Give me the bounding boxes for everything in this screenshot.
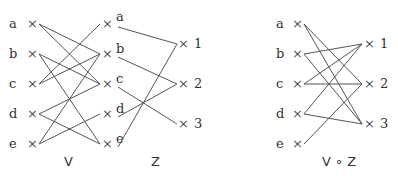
cross-marker-icon: × bbox=[292, 16, 303, 31]
cross-marker-icon: × bbox=[102, 76, 113, 91]
cross-marker-icon: × bbox=[27, 136, 38, 151]
composite-left-node-label: a bbox=[276, 16, 284, 31]
cross-marker-icon: × bbox=[364, 116, 375, 131]
edge-z-b-2 bbox=[118, 57, 177, 84]
left-node-label: d bbox=[9, 106, 17, 121]
cross-marker-icon: × bbox=[102, 46, 113, 61]
cross-marker-icon: × bbox=[102, 136, 113, 151]
left-node-label: c bbox=[9, 76, 16, 91]
cross-marker-icon: × bbox=[27, 16, 38, 31]
right-node-label: 3 bbox=[194, 116, 202, 131]
middle-node-label: d bbox=[116, 101, 124, 116]
edge-vz-b-1 bbox=[304, 44, 362, 54]
right-node-label: 2 bbox=[194, 76, 202, 91]
composite-right-node-label: 1 bbox=[380, 36, 388, 51]
middle-node-label: e bbox=[116, 131, 124, 146]
composite-left-node-label: e bbox=[276, 136, 284, 151]
cross-marker-icon: × bbox=[292, 76, 303, 91]
edge-z-e-1 bbox=[118, 44, 177, 147]
caption-composite: V ∘ Z bbox=[322, 154, 356, 169]
edge-v-a-b bbox=[39, 24, 100, 54]
composite-left-node-label: c bbox=[276, 76, 283, 91]
edge-vz-d-3 bbox=[304, 114, 362, 124]
cross-marker-icon: × bbox=[364, 36, 375, 51]
composite-left-node-label: d bbox=[276, 106, 284, 121]
cross-marker-icon: × bbox=[292, 106, 303, 121]
middle-node-label: c bbox=[116, 71, 123, 86]
composite-left-node-label: b bbox=[276, 46, 284, 61]
cross-marker-icon: × bbox=[178, 76, 189, 91]
cross-marker-icon: × bbox=[27, 76, 38, 91]
cross-marker-icon: × bbox=[292, 136, 303, 151]
cross-marker-icon: × bbox=[27, 46, 38, 61]
edge-z-d-2 bbox=[118, 84, 177, 117]
middle-node-label: a bbox=[116, 9, 124, 24]
cross-marker-icon: × bbox=[102, 16, 113, 31]
cross-marker-icon: × bbox=[292, 46, 303, 61]
cross-marker-icon: × bbox=[178, 116, 189, 131]
edge-z-c-3 bbox=[118, 87, 177, 124]
composite-right-node-label: 3 bbox=[380, 116, 388, 131]
cross-marker-icon: × bbox=[102, 106, 113, 121]
left-node-label: a bbox=[9, 16, 17, 31]
relation-composition-diagram: a×b×c×d×e××a×b×c×d×e×1×2×3a×b×c×d×e××1×2… bbox=[0, 0, 398, 176]
cross-marker-icon: × bbox=[27, 106, 38, 121]
left-node-label: b bbox=[9, 46, 17, 61]
cross-marker-icon: × bbox=[178, 36, 189, 51]
left-node-label: e bbox=[9, 136, 17, 151]
caption-z: Z bbox=[151, 154, 160, 169]
caption-v: V bbox=[64, 154, 73, 169]
composite-right-node-label: 2 bbox=[380, 76, 388, 91]
middle-node-label: b bbox=[116, 41, 124, 56]
right-node-label: 1 bbox=[194, 36, 202, 51]
edge-z-a-1 bbox=[118, 27, 177, 44]
cross-marker-icon: × bbox=[364, 76, 375, 91]
edge-vz-a-3 bbox=[304, 24, 362, 124]
